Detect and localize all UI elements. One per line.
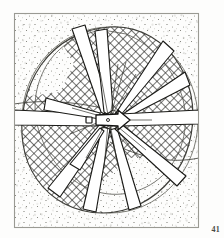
- frame-contents: [14, 13, 199, 228]
- plate-number: 41: [211, 226, 220, 234]
- hub-square-pin: [86, 117, 92, 123]
- figure-plate: [0, 0, 224, 238]
- figure-illustration: [0, 0, 224, 238]
- hub-axle-dot: [107, 119, 110, 122]
